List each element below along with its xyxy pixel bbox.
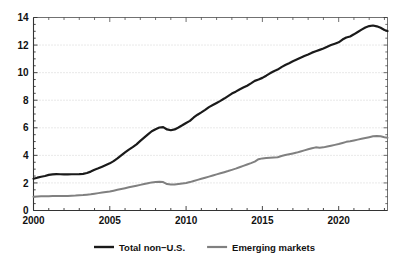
y-tick-label: 14 bbox=[17, 12, 29, 23]
y-tick-label: 10 bbox=[17, 67, 29, 78]
y-tick-label: 2 bbox=[23, 178, 29, 189]
plot-frame bbox=[34, 18, 388, 211]
y-tick-label: 6 bbox=[23, 122, 29, 133]
series-line-emerging-markets bbox=[34, 136, 388, 197]
chart-container: 14121086420 20002005201020152020 Total n… bbox=[0, 0, 409, 268]
legend-label-emerging-markets: Emerging markets bbox=[232, 242, 315, 253]
y-tick-label: 8 bbox=[23, 95, 29, 106]
y-tick-labels: 14121086420 bbox=[17, 12, 29, 216]
x-tick-label: 2000 bbox=[22, 215, 45, 226]
series-line-total-non-us bbox=[34, 26, 388, 179]
series-lines bbox=[34, 26, 388, 197]
y-tick-label: 4 bbox=[23, 150, 29, 161]
chart-legend: Total non−U.S.Emerging markets bbox=[94, 242, 315, 253]
x-tick-label: 2005 bbox=[99, 215, 122, 226]
x-axis bbox=[34, 18, 385, 211]
grid-lines bbox=[34, 45, 388, 183]
y-tick-label: 12 bbox=[17, 40, 29, 51]
x-tick-label: 2010 bbox=[175, 215, 198, 226]
legend-label-total-non-us: Total non−U.S. bbox=[119, 242, 185, 253]
y-axis bbox=[34, 18, 388, 211]
x-tick-labels: 20002005201020152020 bbox=[22, 215, 350, 226]
x-tick-label: 2015 bbox=[251, 215, 274, 226]
line-chart: 14121086420 20002005201020152020 Total n… bbox=[0, 0, 409, 268]
x-tick-label: 2020 bbox=[328, 215, 351, 226]
